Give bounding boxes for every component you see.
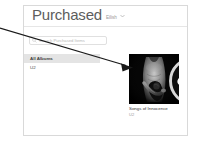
album-grid: Songs of Innocence U2 (129, 54, 187, 117)
sidebar-item-u2[interactable]: U2 (24, 63, 100, 72)
album-artist[interactable]: U2 (129, 112, 179, 117)
search-input-placeholder: Search Purchased Items (39, 38, 85, 43)
page-title: Purchased (32, 6, 102, 23)
purchased-window: Purchased Eilish Search Purchased Items … (23, 5, 188, 136)
window-header: Purchased Eilish (24, 6, 187, 27)
cloud-download-icon[interactable] (168, 56, 177, 65)
sidebar-item-label: All Albums (30, 56, 53, 61)
album-artwork[interactable] (129, 54, 179, 104)
chevron-down-icon[interactable] (120, 14, 125, 18)
search-row: Search Purchased Items (24, 36, 187, 48)
album-card[interactable]: Songs of Innocence U2 (129, 54, 179, 117)
search-input[interactable]: Search Purchased Items (29, 36, 107, 45)
sidebar-item-all-albums[interactable]: All Albums (24, 54, 100, 63)
window-body: All Albums U2 (24, 54, 187, 135)
sidebar: All Albums U2 (24, 54, 100, 72)
search-icon (32, 38, 37, 43)
sidebar-item-label: U2 (30, 65, 36, 70)
album-caption: Songs of Innocence U2 (129, 104, 179, 117)
account-name[interactable]: Eilish (106, 15, 117, 20)
